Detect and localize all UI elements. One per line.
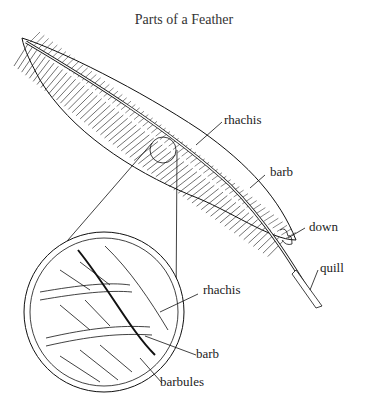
feather-vane [22,38,296,240]
label-quill: quill [320,260,344,276]
feather-illustration [0,0,368,408]
label-barbules: barbules [160,374,204,390]
barb-line [253,230,270,246]
barb-line [14,44,28,66]
label-rhachis: rhachis [224,112,262,128]
quill [292,270,322,308]
label-down: down [309,219,338,235]
barb-line [30,32,40,42]
label-barb: barb [270,164,293,180]
label-barb-detail: barb [196,346,219,362]
barb-line [249,227,267,244]
label-rhachis-detail: rhachis [203,282,241,298]
feather-diagram: Parts of a Feather [0,0,368,408]
